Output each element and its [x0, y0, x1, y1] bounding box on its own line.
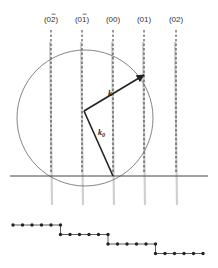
rod-label: (02) [169, 15, 184, 24]
rod-label: (01) [137, 15, 152, 24]
k0-label: k0 [98, 128, 105, 138]
atom-dot [11, 223, 14, 226]
atom-dot [40, 223, 43, 226]
atom-dot [154, 242, 157, 245]
atom-dot [59, 223, 62, 226]
atom-dot [106, 233, 109, 236]
atom-dot [21, 223, 24, 226]
atom-dot [97, 233, 100, 236]
atom-dot [192, 252, 195, 255]
k-label: k [108, 89, 112, 98]
atom-dot [87, 233, 90, 236]
ewald-diagram: (02)(01)(00)(01)(02) k k0 [0, 0, 218, 268]
atom-dot [106, 242, 109, 245]
atom-dot [49, 223, 52, 226]
surface-staircase [11, 223, 204, 255]
atom-dot [201, 252, 204, 255]
atom-dot [154, 252, 157, 255]
atom-dot [163, 252, 166, 255]
atom-dot [144, 242, 147, 245]
rod-labels: (02)(01)(00)(01)(02) [44, 14, 184, 24]
atom-dot [125, 242, 128, 245]
atom-dot [135, 242, 138, 245]
atom-dot [68, 233, 71, 236]
atom-dot [182, 252, 185, 255]
atom-dot [78, 233, 81, 236]
rod-label: (00) [106, 15, 121, 24]
wave-vector-k [84, 75, 144, 111]
rod-label: (01) [75, 15, 90, 24]
wave-vector-k0 [84, 111, 113, 176]
ewald-sphere [17, 50, 153, 186]
atom-dot [116, 242, 119, 245]
atom-dot [173, 252, 176, 255]
rod-label: (02) [44, 15, 59, 24]
atom-dot [30, 223, 33, 226]
atom-dot [59, 233, 62, 236]
